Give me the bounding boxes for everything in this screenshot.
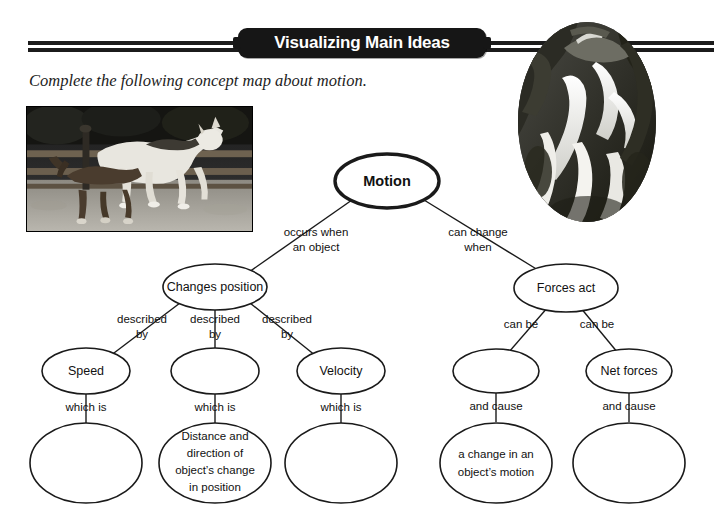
node-blank-bottom-5[interactable] — [573, 423, 685, 503]
worksheet-page: Visualizing Main Ideas Complete the foll… — [0, 0, 714, 509]
node-velocity-label: Velocity — [319, 364, 363, 378]
node-distance-direction-line-2: direction of — [187, 447, 244, 459]
node-blank-bottom-3[interactable] — [285, 423, 397, 503]
node-distance-direction-line-4: in position — [189, 481, 241, 493]
node-blank-mid-right[interactable] — [453, 349, 539, 393]
node-forces-act-label: Forces act — [537, 281, 596, 295]
edge-label-occurs-when-line-1: occurs when — [284, 226, 349, 238]
edge-label-which-is-1: which is — [65, 401, 107, 413]
edge-label-can-change-line-2: when — [463, 241, 492, 253]
waterfall-photo — [518, 22, 656, 222]
edge-label-can-change-line-1: can change — [448, 226, 507, 238]
node-change-in-motion-line-1: a change in an — [458, 448, 533, 460]
page-title-banner: Visualizing Main Ideas — [238, 28, 486, 58]
edge-label-described-by-2-line-1: described — [190, 313, 240, 325]
edge-label-described-by-3-line-2: by — [281, 328, 293, 340]
edge-label-described-by-1-line-1: described — [117, 313, 167, 325]
banner-cap-left — [233, 37, 241, 49]
edge-label-occurs-when-line-2: an object — [293, 241, 340, 253]
node-motion-label: Motion — [363, 173, 411, 189]
edge-label-described-by-3-line-1: described — [262, 313, 312, 325]
edge-label-which-is-3: which is — [320, 401, 362, 413]
node-distance-direction-line-3: object’s change — [175, 464, 255, 476]
edge-label-can-be-1: can be — [504, 318, 539, 330]
node-speed-label: Speed — [68, 364, 104, 378]
page-title: Visualizing Main Ideas — [274, 33, 450, 53]
edge-label-which-is-2: which is — [194, 401, 236, 413]
edge-label-described-by-1-line-2: by — [136, 328, 148, 340]
waterfall-photo-graphic — [518, 22, 656, 222]
node-net-forces-label: Net forces — [601, 364, 658, 378]
edge-label-and-cause-2: and cause — [602, 400, 655, 412]
node-blank-mid-left[interactable] — [171, 348, 259, 394]
node-distance-direction-line-1: Distance and — [181, 430, 248, 442]
edge-label-and-cause-1: and cause — [469, 400, 522, 412]
node-change-in-motion-line-2: object’s motion — [458, 466, 535, 478]
banner-cap-right — [483, 37, 491, 49]
edge-label-can-be-2: can be — [580, 318, 615, 330]
node-change-in-motion[interactable] — [440, 423, 552, 503]
node-changes-position-label: Changes position — [167, 280, 264, 294]
edge-label-described-by-2-line-2: by — [209, 328, 221, 340]
node-blank-bottom-1[interactable] — [30, 423, 142, 503]
